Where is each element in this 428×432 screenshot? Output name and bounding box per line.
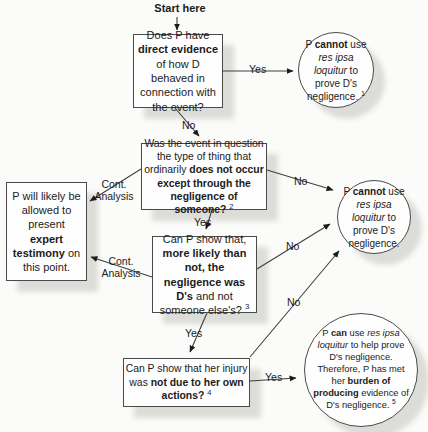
edge-label-cont-analysis-2: Cont. Analysis: [97, 255, 145, 279]
start-here-label: Start here: [146, 2, 214, 14]
result-expert-testimony-text: P will likely be allowed to present expe…: [11, 189, 82, 275]
question-direct-evidence-text: Does P have direct evidence of how D beh…: [137, 28, 219, 114]
edge-label-no-ordinary: No: [294, 175, 307, 187]
edge-label-cont-analysis-1: Cont. Analysis: [90, 178, 138, 202]
flowchart-res-ipsa-loquitur: Start here Does P have direct evidence o…: [0, 0, 428, 432]
result-can-use-res-ipsa: P can use res ipsa loquitur to help prov…: [304, 313, 418, 427]
question-negligence-was-ds: Can P show that, more likely than not, t…: [152, 236, 257, 313]
result-can-use-res-ipsa-text: P can use res ipsa loquitur to help prov…: [311, 328, 411, 411]
question-own-actions-text: Can P show that her injury was not due t…: [125, 362, 248, 403]
question-ordinary-occurrence: Was the event in question the type of th…: [141, 143, 267, 210]
question-direct-evidence: Does P have direct evidence of how D beh…: [133, 34, 223, 108]
question-own-actions: Can P show that her injury was not due t…: [123, 358, 250, 407]
edge-label-no-direct: No: [182, 119, 195, 131]
edge-label-yes-direct: Yes: [249, 63, 266, 75]
edge-label-yes-own-actions: Yes: [265, 371, 282, 383]
edge-label-no-more-likely: No: [286, 240, 299, 252]
result-cannot-use-res-ipsa-2-text: P cannot use res ipsa loquitur to prove …: [340, 185, 408, 250]
edge-label-yes-more-likely: Yes: [185, 327, 202, 339]
question-negligence-was-ds-text: Can P show that, more likely than not, t…: [156, 232, 253, 316]
question-ordinary-occurrence-text: Was the event in question the type of th…: [144, 137, 264, 217]
result-cannot-use-res-ipsa-1: P cannot use res ipsa loquitur to prove …: [298, 32, 374, 108]
result-expert-testimony: P will likely be allowed to present expe…: [6, 182, 87, 281]
edge-label-no-own-actions: No: [287, 296, 300, 308]
edge-label-yes-ordinary: Yes: [194, 216, 211, 228]
result-cannot-use-res-ipsa-1-text: P cannot use res ipsa loquitur to prove …: [301, 38, 371, 103]
result-cannot-use-res-ipsa-2: P cannot use res ipsa loquitur to prove …: [337, 180, 411, 254]
